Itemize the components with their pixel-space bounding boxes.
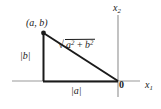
hypotenuse-label: a2 + b2 (58, 39, 96, 50)
x2-axis-label: x2 (113, 3, 121, 15)
hypotenuse-exponent-b: 2 (90, 39, 93, 46)
hypotenuse-plus-sign: + (74, 39, 85, 50)
x1-axis-label-subscript: 1 (149, 84, 152, 91)
vertex-coordinate-label: (a, b) (26, 18, 48, 28)
radical-group: a2 + b2 (58, 39, 96, 50)
x1-axis-label: x1 (145, 80, 153, 92)
origin-label: 0 (119, 80, 124, 90)
vertical-leg-label: |b| (20, 51, 31, 61)
vertex-point-marker (41, 31, 46, 36)
x2-axis-label-subscript: 2 (117, 7, 120, 14)
figure-container: (a, b) |b| |a| a2 + b2 0 x1 x2 (0, 0, 161, 109)
horizontal-leg-label: |a| (71, 86, 82, 96)
